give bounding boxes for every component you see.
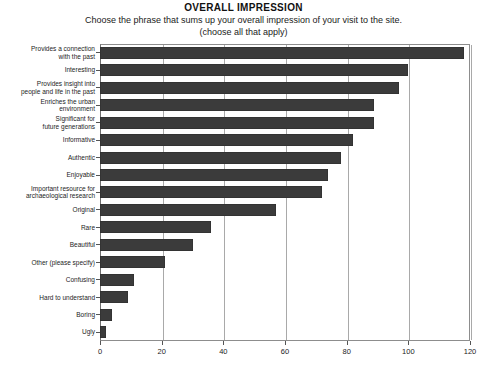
bar-row xyxy=(100,114,374,131)
x-axis-tick-mark xyxy=(470,341,471,345)
y-axis-label-row: Interesting xyxy=(0,61,100,78)
x-axis-tick-label: 120 xyxy=(464,347,477,356)
bar xyxy=(100,291,128,303)
bar xyxy=(100,47,464,59)
bar-row xyxy=(100,324,106,341)
bar-row xyxy=(100,131,353,148)
bar xyxy=(100,221,211,233)
y-axis-tick-label: Confusing xyxy=(66,276,100,284)
bar xyxy=(100,309,112,321)
bar-row xyxy=(100,271,134,288)
y-axis-label-row: Significant for future generations xyxy=(0,114,100,131)
bar-row xyxy=(100,44,464,61)
y-axis-label-row: Enjoyable xyxy=(0,166,100,183)
bar-row xyxy=(100,79,399,96)
bar xyxy=(100,152,341,164)
bar-row xyxy=(100,236,193,253)
bar xyxy=(100,117,374,129)
y-axis-tick-label: Important resource for archaeological re… xyxy=(26,185,100,200)
bar-row xyxy=(100,201,276,218)
chart-subtitle-secondary: (choose all that apply) xyxy=(0,26,487,38)
bar-row xyxy=(100,289,128,306)
bar-row xyxy=(100,306,112,323)
y-axis-tick-label: Enriches the urban environment xyxy=(40,98,100,113)
bar-row xyxy=(100,219,211,236)
x-axis-tick-label: 100 xyxy=(402,347,415,356)
bar xyxy=(100,82,399,94)
y-axis-tick-label: Provides a connection with the past xyxy=(31,45,100,60)
bar-row xyxy=(100,96,374,113)
y-axis-tick-label: Enjoyable xyxy=(66,171,100,179)
x-axis-tick-mark xyxy=(408,341,409,345)
y-axis-label-row: Provides a connection with the past xyxy=(0,44,100,61)
x-axis-tick-label: 0 xyxy=(98,347,102,356)
y-axis-label-row: Authentic xyxy=(0,149,100,166)
y-axis-label-row: Ugly xyxy=(0,324,100,341)
bar xyxy=(100,186,322,198)
y-axis-label-row: Original xyxy=(0,201,100,218)
bar-row xyxy=(100,61,408,78)
x-axis: 020406080100120 xyxy=(100,341,470,371)
bar xyxy=(100,169,328,181)
y-axis-tick-label: Interesting xyxy=(65,66,100,74)
bar-row xyxy=(100,254,165,271)
bar xyxy=(100,274,134,286)
bar xyxy=(100,239,193,251)
y-axis-tick-label: Significant for future generations xyxy=(43,115,100,130)
y-axis-label-row: Provides insight into people and life in… xyxy=(0,79,100,96)
x-axis-tick-mark xyxy=(347,341,348,345)
gridline-x-120 xyxy=(471,45,472,340)
y-axis-label-row: Boring xyxy=(0,306,100,323)
y-axis-label-row: Informative xyxy=(0,131,100,148)
y-axis-label-row: Hard to understand xyxy=(0,289,100,306)
y-axis-label-row: Confusing xyxy=(0,271,100,288)
x-axis-tick-label: 60 xyxy=(281,347,289,356)
bar-row xyxy=(100,184,322,201)
bar-row xyxy=(100,149,341,166)
y-axis-label-row: Important resource for archaeological re… xyxy=(0,184,100,201)
x-axis-tick-mark xyxy=(223,341,224,345)
y-axis-label-row: Enriches the urban environment xyxy=(0,96,100,113)
chart-figure: OVERALL IMPRESSION Choose the phrase tha… xyxy=(0,0,487,382)
y-axis-label-row: Beautiful xyxy=(0,236,100,253)
chart-subtitle: Choose the phrase that sums up your over… xyxy=(0,14,487,26)
page-title: OVERALL IMPRESSION xyxy=(0,2,487,14)
y-axis-tick-label: Informative xyxy=(63,136,100,144)
x-axis-tick-mark xyxy=(285,341,286,345)
bar xyxy=(100,326,106,338)
bars-container xyxy=(100,44,470,341)
x-axis-tick-mark xyxy=(162,341,163,345)
y-axis-tick-label: Provides insight into people and life in… xyxy=(21,80,100,95)
x-axis-tick-mark xyxy=(100,341,101,345)
x-axis-tick-label: 40 xyxy=(219,347,227,356)
y-axis-tick-label: Hard to understand xyxy=(39,294,100,302)
bar xyxy=(100,204,276,216)
x-axis-tick-label: 20 xyxy=(157,347,165,356)
y-axis-label-row: Rare xyxy=(0,219,100,236)
bar-row xyxy=(100,166,328,183)
bar xyxy=(100,256,165,268)
bar xyxy=(100,99,374,111)
y-axis-tick-label: Other (please specify) xyxy=(31,259,100,267)
y-axis-labels: Provides a connection with the pastInter… xyxy=(0,44,100,341)
bar xyxy=(100,134,353,146)
title-block: OVERALL IMPRESSION Choose the phrase tha… xyxy=(0,2,487,38)
x-axis-tick-label: 80 xyxy=(342,347,350,356)
y-axis-label-row: Other (please specify) xyxy=(0,254,100,271)
bar xyxy=(100,64,408,76)
